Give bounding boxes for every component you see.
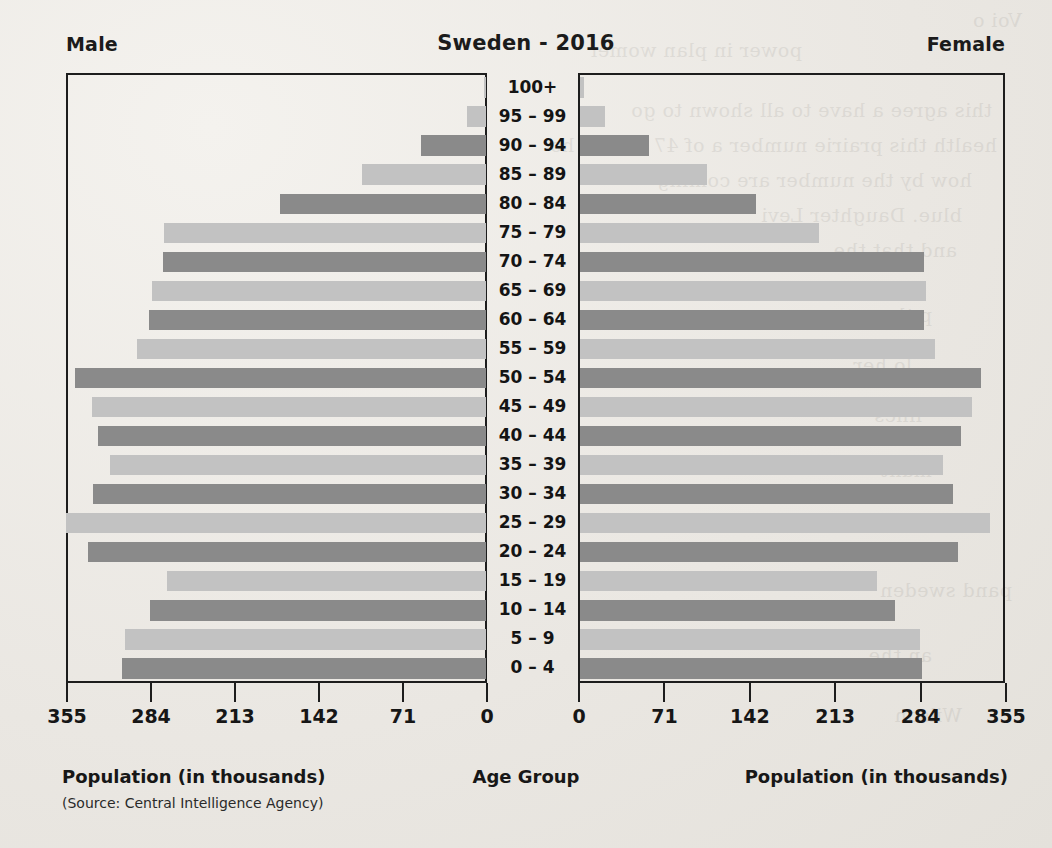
male-tick-label: 71 [390, 705, 416, 727]
male-bar [98, 426, 486, 446]
age-group-label: 45 – 49 [487, 398, 578, 415]
male-tick-label: 213 [215, 705, 255, 727]
age-group-label: 90 – 94 [487, 137, 578, 154]
age-group-label: 60 – 64 [487, 311, 578, 328]
pyramid-row: 60 – 64 [0, 305, 1052, 334]
male-bar [93, 484, 486, 504]
right-axis-title: Population (in thousands) [745, 766, 1008, 787]
pyramid-row: 35 – 39 [0, 451, 1052, 480]
pyramid-row: 15 – 19 [0, 567, 1052, 596]
male-bar [125, 629, 486, 649]
female-bar [580, 281, 926, 301]
male-bar [122, 658, 486, 678]
male-bar [163, 252, 486, 272]
pyramid-row: 45 – 49 [0, 393, 1052, 422]
male-bar [110, 455, 486, 475]
pyramid-row: 0 – 4 [0, 654, 1052, 683]
age-group-label: 20 – 24 [487, 543, 578, 560]
tick-mark [578, 683, 580, 702]
tick-mark [150, 683, 152, 702]
female-bar [580, 513, 990, 533]
female-bar [580, 600, 895, 620]
female-bar [580, 542, 958, 562]
female-bar [580, 164, 707, 184]
female-bar [580, 135, 649, 155]
pyramid-row: 95 – 99 [0, 102, 1052, 131]
female-tick-label: 0 [572, 705, 585, 727]
female-bar [580, 571, 877, 591]
female-bar [580, 194, 756, 214]
male-bar [484, 77, 486, 97]
female-bar [580, 426, 961, 446]
pyramid-row: 85 – 89 [0, 160, 1052, 189]
tick-mark [66, 683, 68, 702]
male-bar [167, 571, 486, 591]
female-bar [580, 397, 972, 417]
pyramid-row: 65 – 69 [0, 276, 1052, 305]
age-group-label: 55 – 59 [487, 340, 578, 357]
female-bar [580, 252, 924, 272]
pyramid-row: 30 – 34 [0, 480, 1052, 509]
male-bar [88, 542, 486, 562]
age-group-label: 35 – 39 [487, 456, 578, 473]
tick-mark [834, 683, 836, 702]
pyramid-row: 55 – 59 [0, 334, 1052, 363]
pyramid-row: 5 – 9 [0, 625, 1052, 654]
female-bar [580, 658, 922, 678]
male-bar [280, 194, 486, 214]
source-note: (Source: Central Intelligence Agency) [62, 795, 323, 811]
age-group-label: 15 – 19 [487, 572, 578, 589]
pyramid-row: 100+ [0, 73, 1052, 102]
female-bar [580, 223, 819, 243]
male-bar [149, 310, 486, 330]
pyramid-row: 50 – 54 [0, 363, 1052, 392]
tick-mark [234, 683, 236, 702]
tick-mark [1005, 683, 1007, 702]
tick-mark [486, 683, 488, 702]
age-group-label: 85 – 89 [487, 166, 578, 183]
female-header-label: Female [927, 33, 1005, 55]
female-bar [580, 106, 605, 126]
pyramid-row: 90 – 94 [0, 131, 1052, 160]
male-bar [150, 600, 486, 620]
male-bar [92, 397, 486, 417]
bar-rows: 100+95 – 9990 – 9485 – 8980 – 8475 – 797… [0, 73, 1052, 683]
tick-mark [402, 683, 404, 702]
male-tick-label: 0 [480, 705, 493, 727]
male-tick-label: 284 [131, 705, 171, 727]
male-bar [66, 513, 486, 533]
female-tick-label: 142 [730, 705, 770, 727]
age-group-label: 0 – 4 [487, 659, 578, 676]
female-bar [580, 455, 943, 475]
female-bar [580, 339, 935, 359]
chart-title: Sweden - 2016 [0, 31, 1052, 55]
tick-mark [663, 683, 665, 702]
age-group-label: 80 – 84 [487, 195, 578, 212]
pyramid-row: 10 – 14 [0, 596, 1052, 625]
male-bar [152, 281, 486, 301]
female-bar [580, 310, 924, 330]
female-tick-label: 213 [815, 705, 855, 727]
age-group-label: 100+ [487, 79, 578, 96]
pyramid-row: 25 – 29 [0, 509, 1052, 538]
female-tick-label: 284 [901, 705, 941, 727]
pyramid-row: 20 – 24 [0, 538, 1052, 567]
age-group-label: 50 – 54 [487, 369, 578, 386]
age-group-label: 75 – 79 [487, 224, 578, 241]
pyramid-row: 80 – 84 [0, 189, 1052, 218]
age-group-label: 25 – 29 [487, 514, 578, 531]
tick-mark [920, 683, 922, 702]
male-bar [467, 106, 486, 126]
age-group-label: 10 – 14 [487, 601, 578, 618]
pyramid-row: 70 – 74 [0, 247, 1052, 276]
age-group-label: 5 – 9 [487, 630, 578, 647]
female-tick-label: 71 [651, 705, 677, 727]
population-pyramid-chart: Male Sweden - 2016 Female 100+95 – 9990 … [0, 0, 1052, 848]
age-group-label: 95 – 99 [487, 108, 578, 125]
female-tick-label: 355 [986, 705, 1026, 727]
male-bar [75, 368, 486, 388]
male-tick-label: 142 [299, 705, 339, 727]
age-group-label: 70 – 74 [487, 253, 578, 270]
female-bar [580, 484, 953, 504]
female-bar [580, 77, 584, 97]
